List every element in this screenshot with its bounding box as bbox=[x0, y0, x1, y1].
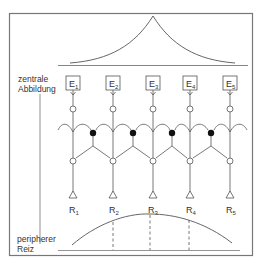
svg-text:R5: R5 bbox=[226, 205, 237, 216]
column-4 bbox=[183, 76, 197, 198]
central-image-label: zentrale Abbildung bbox=[18, 74, 56, 94]
central-label-line1: zentrale bbox=[18, 74, 56, 84]
stimulus-projections bbox=[113, 215, 189, 250]
column-5 bbox=[223, 76, 237, 198]
peripheral-label-line1: peripherer bbox=[17, 234, 56, 244]
central-label-line2: Abbildung bbox=[18, 84, 56, 94]
collateral-arcs bbox=[58, 124, 247, 132]
svg-text:R1: R1 bbox=[69, 205, 80, 216]
peripheral-stimulus-curve bbox=[72, 214, 232, 245]
svg-text:R2: R2 bbox=[109, 205, 120, 216]
svg-text:R4: R4 bbox=[186, 205, 197, 216]
column-2 bbox=[106, 76, 120, 198]
inhibitory-branches bbox=[76, 136, 227, 158]
inhibitory-node-4 bbox=[208, 130, 214, 136]
inhibitory-node-3 bbox=[169, 130, 175, 136]
inhibitory-node-2 bbox=[130, 130, 136, 136]
neuron-columns bbox=[58, 76, 247, 198]
column-3 bbox=[146, 76, 160, 198]
peripheral-stimulus-label: peripherer Reiz bbox=[17, 234, 56, 254]
central-unit-labels: E1 E2 E3 E4 E5 bbox=[69, 79, 236, 90]
lateral-inhibition-diagram: E1 E2 E3 E4 E5 R1 R2 R3 R4 R5 bbox=[0, 0, 263, 263]
peripheral-label-line2: Reiz bbox=[17, 244, 56, 254]
inhibitory-node-1 bbox=[90, 130, 96, 136]
column-1 bbox=[66, 76, 80, 198]
central-response-curve bbox=[70, 16, 235, 63]
